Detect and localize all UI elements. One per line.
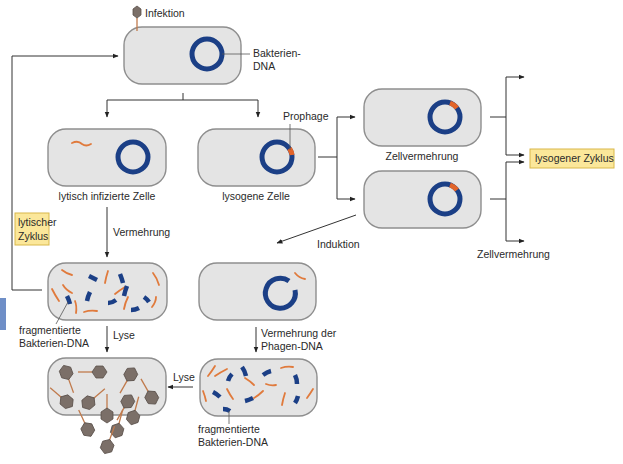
lytic-infected-cell-label: lytisch infizierte Zelle [59,190,156,202]
cell-division-label-bottom: Zellvermehrung [477,248,550,260]
lytic-infected-cell [48,129,166,186]
daughter-cell-2 [364,171,481,228]
lysogenic-cell-label: lysogene Zelle [222,190,290,202]
bacterial-dna-label-1: Bakterien- [253,47,301,59]
fragmented-dna-label-1b: Bakterien-DNA [19,337,89,349]
induction-label: Induktion [317,238,360,250]
fragmented-dna-label-2a: fragmentierte [198,423,260,435]
fragmented-dna-label-2b: Bakterien-DNA [198,436,268,448]
phage-replicating-cell [200,359,317,416]
fragmented-dna-label-1a: fragmentierte [19,324,81,336]
lysis-label-1: Lyse [113,329,135,341]
lysogenic-cycle-label: lysogener Zyklus [535,152,614,164]
daughter-cell-1 [364,89,481,146]
replication-label: Vermehrung [113,226,170,238]
lytic-replicating-cell [48,263,167,320]
lytic-cycle-label-2: Zyklus [18,230,48,242]
lytic-cycle-label-1: lytischer [18,216,57,228]
phage-dna-replication-label-1: Vermehrung der [261,327,337,339]
lysogenic-cell [198,129,315,186]
phage-dna-replication-label-2: Phagen-DNA [261,340,323,352]
cell-division-label-top: Zellvermehrung [386,150,459,162]
lysis-label-2: Lyse [173,371,195,383]
bacterial-dna-label-2: DNA [253,60,275,72]
infection-label: Infektion [145,7,185,19]
side-tab [0,298,6,330]
prophage-label: Prophage [283,110,329,122]
induced-cell [199,263,316,320]
infected-cell [124,27,241,84]
phage-life-cycle-diagram: Infektion Bakterien- DNA lytisch infizie… [0,0,623,464]
